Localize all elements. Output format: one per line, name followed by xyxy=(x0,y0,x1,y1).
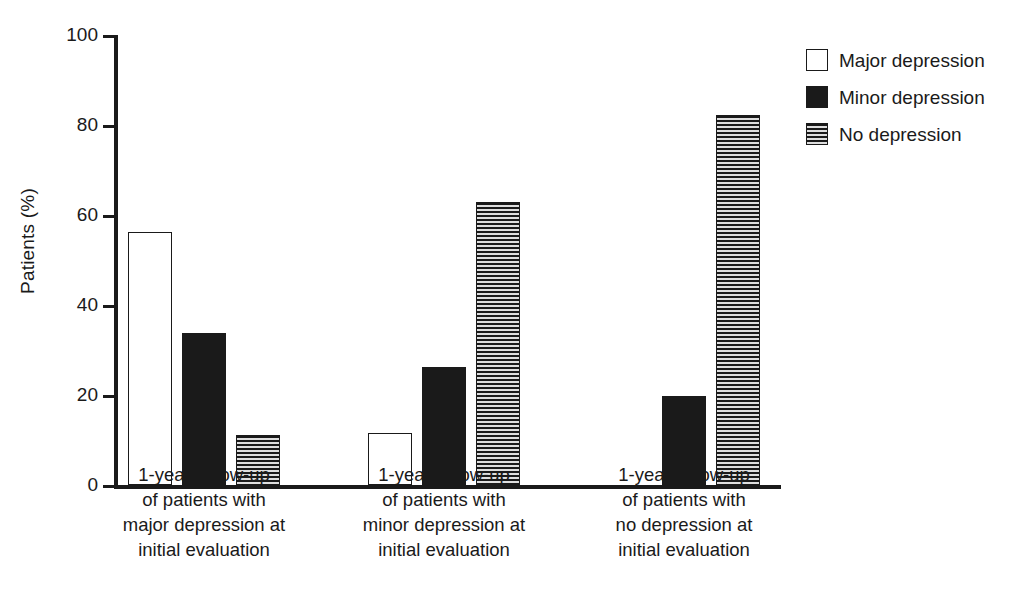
y-axis-tick-label: 40 xyxy=(42,295,98,314)
plot-area: 020406080100 xyxy=(118,35,778,485)
y-axis-tick-label: 60 xyxy=(42,205,98,224)
legend-swatch-icon xyxy=(806,123,828,145)
y-axis-tick-label: 80 xyxy=(42,115,98,134)
legend-swatch-icon xyxy=(806,49,828,71)
legend-item-label: No depression xyxy=(839,125,962,144)
bar xyxy=(716,115,760,485)
legend-item: No depression xyxy=(806,118,1016,150)
legend-swatch-icon xyxy=(806,86,828,108)
x-axis-group-label: 1-year follow-up of patients with minor … xyxy=(324,462,564,562)
y-axis-tick-label: 20 xyxy=(42,385,98,404)
bar xyxy=(128,232,172,485)
y-axis-tick-mark xyxy=(103,215,114,218)
y-axis-tick-label: 100 xyxy=(42,25,98,44)
legend-item: Minor depression xyxy=(806,81,1016,113)
chart-legend: Major depressionMinor depressionNo depre… xyxy=(806,44,1016,155)
legend-item: Major depression xyxy=(806,44,1016,76)
y-axis-tick-mark xyxy=(103,305,114,308)
y-axis-tick-mark xyxy=(103,35,114,38)
y-axis-tick-mark xyxy=(103,395,114,398)
y-axis-title: Patients (%) xyxy=(17,161,39,321)
x-axis-group-label: 1-year follow-up of patients with major … xyxy=(84,462,324,562)
legend-item-label: Minor depression xyxy=(839,88,985,107)
legend-item-label: Major depression xyxy=(839,51,985,70)
bar-chart-figure: Patients (%) 020406080100 1-year follow-… xyxy=(0,0,1023,616)
x-axis-group-label: 1-year follow-up of patients with no dep… xyxy=(564,462,804,562)
y-axis-tick-mark xyxy=(103,125,114,128)
y-axis-line xyxy=(114,35,118,487)
bar xyxy=(476,202,520,486)
